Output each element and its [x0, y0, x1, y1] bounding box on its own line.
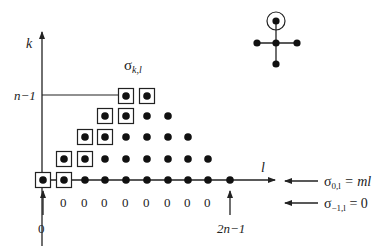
diagram-svg: k l n−1 σk,l 00000000 0 2n−1 σ0,l = ml σ… [0, 0, 380, 246]
grid-dot [184, 176, 192, 184]
cross-graph-icon [253, 12, 300, 68]
grid-dot [184, 155, 192, 163]
grid-dot [122, 155, 130, 163]
grid-dot [143, 112, 151, 120]
grid-dot [81, 155, 89, 163]
zero-label: 0 [204, 195, 211, 210]
grid-dot [122, 92, 130, 100]
n-minus-1-label: n−1 [14, 88, 36, 103]
grid-dot [101, 133, 109, 141]
k-axis-label: k [26, 36, 33, 51]
grid-dot [164, 155, 172, 163]
grid-dot [81, 133, 89, 141]
dot-grid [36, 89, 234, 188]
bottom-zero-labels: 00000000 [60, 195, 211, 210]
end-label: 2n−1 [217, 221, 245, 236]
grid-dot [122, 133, 130, 141]
diagram-canvas: k l n−1 σk,l 00000000 0 2n−1 σ0,l = ml σ… [0, 0, 380, 246]
grid-dot [143, 92, 151, 100]
grid-dot [39, 176, 47, 184]
grid-dot [164, 112, 172, 120]
zero-label: 0 [143, 195, 150, 210]
grid-dot [204, 155, 212, 163]
grid-dot [60, 155, 68, 163]
grid-dot [164, 133, 172, 141]
grid-dot [184, 133, 192, 141]
zero-label: 0 [184, 195, 191, 210]
zero-label: 0 [81, 195, 88, 210]
sigma-0l-label: σ0,l = ml [324, 174, 371, 191]
grid-dot [143, 133, 151, 141]
grid-dot [122, 176, 130, 184]
grid-dot [60, 176, 68, 184]
grid-dot [81, 176, 89, 184]
sigma-kl-label: σk,l [124, 57, 142, 75]
l-axis-label: l [261, 160, 265, 175]
zero-label: 0 [122, 195, 129, 210]
grid-dot [101, 112, 109, 120]
grid-dot [143, 155, 151, 163]
grid-dot [101, 176, 109, 184]
grid-dot [164, 176, 172, 184]
grid-dot [101, 155, 109, 163]
grid-dot [226, 176, 234, 184]
grid-dot [143, 176, 151, 184]
origin-label: 0 [38, 221, 45, 236]
grid-dot [122, 112, 130, 120]
sigma-minus1l-label: σ−1,l = 0 [324, 196, 368, 213]
zero-label: 0 [60, 195, 67, 210]
grid-dot [204, 176, 212, 184]
zero-label: 0 [101, 195, 108, 210]
zero-label: 0 [164, 195, 171, 210]
